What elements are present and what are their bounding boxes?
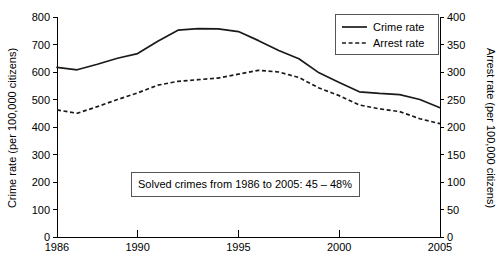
right-axis-tick-label: 150	[447, 149, 465, 161]
right-axis: 050100150200250300350400	[440, 11, 465, 243]
left-axis: 0100200300400500600700800	[32, 11, 57, 243]
x-axis-tick-label: 1986	[45, 241, 69, 253]
left-axis-tick-label: 800	[32, 11, 50, 23]
right-axis-title: Arrest rate (per 100,000 citizens)	[485, 48, 497, 208]
left-axis-tick-label: 500	[32, 94, 50, 106]
series-line-arrest-rate	[57, 70, 440, 123]
left-axis-tick-label: 400	[32, 121, 50, 133]
left-axis-tick-label: 300	[32, 149, 50, 161]
legend-label-crime-rate: Crime rate	[373, 21, 424, 33]
right-axis-tick-label: 50	[447, 204, 459, 216]
right-axis-tick-label: 400	[447, 11, 465, 23]
right-axis-tick-label: 200	[447, 121, 465, 133]
x-axis-tick-label: 1995	[226, 241, 250, 253]
chart-canvas: 0100200300400500600700800 05010015020025…	[0, 0, 497, 272]
x-axis-tick-label: 1990	[125, 241, 149, 253]
right-axis-tick-label: 300	[447, 66, 465, 78]
x-axis: 19861990199520002005	[45, 230, 452, 253]
annotation-group: Solved crimes from 1986 to 2005: 45 – 48…	[131, 172, 359, 196]
x-axis-tick-label: 2005	[428, 241, 452, 253]
right-axis-tick-label: 350	[447, 39, 465, 51]
annotation-text: Solved crimes from 1986 to 2005: 45 – 48…	[138, 178, 352, 190]
left-axis-tick-label: 600	[32, 66, 50, 78]
left-axis-tick-label: 100	[32, 204, 50, 216]
chart-legend: Crime rateArrest rate	[335, 14, 438, 54]
x-axis-tick-label: 2000	[327, 241, 351, 253]
right-axis-tick-label: 100	[447, 176, 465, 188]
left-axis-tick-label: 700	[32, 39, 50, 51]
legend-label-arrest-rate: Arrest rate	[373, 37, 424, 49]
crime-arrest-rate-chart: 0100200300400500600700800 05010015020025…	[0, 0, 497, 272]
left-axis-title: Crime rate (per 100,000 citizens)	[6, 48, 18, 208]
right-axis-tick-label: 250	[447, 94, 465, 106]
left-axis-tick-label: 200	[32, 176, 50, 188]
